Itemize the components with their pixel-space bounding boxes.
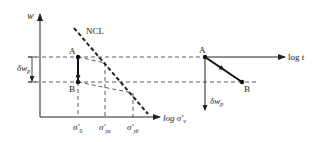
point-a-left — [76, 55, 80, 59]
tick-sigma-yb: σ′yb — [127, 122, 139, 134]
creep-line-arrow — [218, 66, 224, 70]
point-b-label-left: B — [69, 84, 75, 94]
time-axis-label: log t — [288, 52, 305, 62]
ncl-line — [74, 28, 148, 114]
y-axis-label: w — [27, 10, 34, 21]
diagram: w log σ′v NCL A B δwp σ′0 — [0, 0, 322, 142]
point-b-label-right: B — [244, 84, 250, 94]
x-axis-label: log σ′v — [163, 113, 186, 124]
ncl-label: NCL — [86, 26, 104, 36]
point-a-label-left: A — [69, 46, 76, 56]
left-panel: w log σ′v NCL A B δwp σ′0 — [17, 10, 258, 134]
right-panel: log t δwp A B — [199, 45, 305, 110]
tick-sigma-0: σ′0 — [73, 122, 82, 134]
bracket-label: δwp — [17, 63, 30, 74]
point-a-label-right: A — [199, 45, 206, 55]
tick-sigma-ya: σ′ya — [99, 122, 111, 134]
settlement-axis-label: δwp — [210, 96, 223, 107]
point-a-right — [203, 55, 207, 59]
point-b-left — [76, 80, 80, 84]
